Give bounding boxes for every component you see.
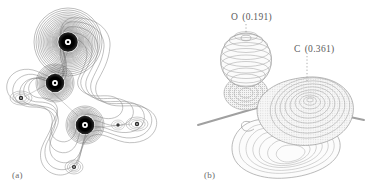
contour-map-svg: [0, 0, 188, 192]
nucleus-hydrogen-2: [126, 117, 148, 131]
atom-value-c: (0.361): [305, 44, 335, 54]
atom-symbol-c: C: [294, 44, 301, 54]
nucleus-heavy-atom-1: [34, 8, 102, 76]
c-main-lobe: [257, 73, 354, 146]
nucleus-hydrogen-3: [65, 160, 83, 174]
atom-symbol-o: O: [231, 12, 238, 22]
scientific-figure: (a): [0, 0, 375, 192]
panel-b-isosurface: O(0.191) C(0.361) (b): [188, 0, 375, 192]
nucleus-hydrogen-1: [10, 91, 32, 105]
atom-label-carbon: C(0.361): [294, 45, 334, 55]
atom-label-oxygen: O(0.191): [231, 13, 272, 23]
panel-b-caption: (b): [204, 171, 215, 180]
atom-value-o: (0.191): [242, 12, 272, 22]
nucleus-heavy-atom-2: [36, 64, 74, 102]
panel-a-caption: (a): [12, 171, 23, 180]
isosurface-svg: [188, 0, 375, 192]
o-upper-lobe: [221, 32, 272, 87]
panel-a-contour-map: (a): [0, 0, 188, 192]
